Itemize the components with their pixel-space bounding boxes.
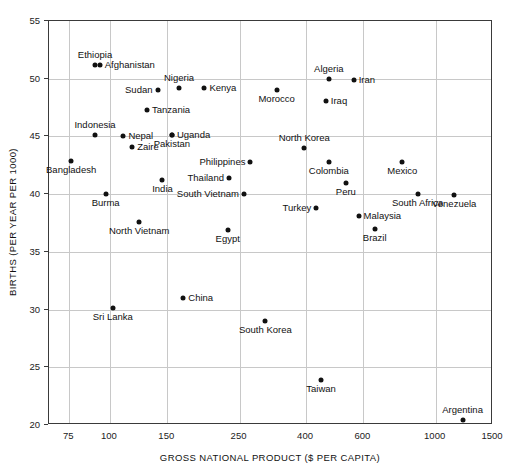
x-tick-label: 250	[231, 430, 247, 441]
x-tick-label: 150	[158, 430, 174, 441]
y-tick-mark	[44, 366, 48, 367]
data-point	[343, 180, 348, 185]
y-gridline	[49, 310, 491, 311]
data-point	[226, 175, 231, 180]
data-point-label: Egypt	[216, 234, 240, 244]
data-point-label: Argentina	[442, 405, 483, 415]
y-tick-label: 55	[14, 15, 40, 26]
data-point	[248, 159, 253, 164]
data-point-label: Burma	[92, 198, 120, 208]
x-tick-label: 1500	[481, 430, 502, 441]
data-point	[225, 227, 230, 232]
data-point-label: Pakistan	[154, 139, 190, 149]
data-point-label: Sri Lanka	[93, 312, 133, 322]
data-point	[97, 62, 102, 67]
y-tick-label: 30	[14, 303, 40, 314]
x-tick-label: 75	[63, 430, 74, 441]
data-point	[69, 158, 74, 163]
data-point	[263, 319, 268, 324]
x-tick-label: 600	[354, 430, 370, 441]
data-point	[137, 219, 142, 224]
x-gridline	[240, 21, 241, 423]
y-tick-mark	[44, 309, 48, 310]
y-gridline	[49, 194, 491, 195]
data-point	[121, 134, 126, 139]
data-point-label: India	[152, 184, 173, 194]
x-gridline	[306, 21, 307, 423]
data-point-label: Indonesia	[74, 120, 115, 130]
data-point	[460, 418, 465, 423]
data-point-label: Malaysia	[364, 211, 402, 221]
y-tick-mark	[44, 135, 48, 136]
y-gridline	[49, 367, 491, 368]
data-point	[160, 178, 165, 183]
data-point-label: Tanzania	[152, 105, 190, 115]
y-gridline	[49, 79, 491, 80]
x-gridline	[69, 21, 70, 423]
data-point	[145, 107, 150, 112]
x-tick-label: 1000	[424, 430, 445, 441]
data-point-label: Venezuela	[432, 199, 476, 209]
data-point-label: Colombia	[309, 166, 349, 176]
data-point	[356, 214, 361, 219]
y-tick-label: 25	[14, 361, 40, 372]
x-tick-label: 100	[101, 430, 117, 441]
y-tick-label: 45	[14, 130, 40, 141]
y-tick-mark	[44, 251, 48, 252]
plot-area: EthiopiaAfghanistanSudanNigeriaKenyaMoro…	[48, 20, 492, 424]
data-point	[351, 77, 356, 82]
y-tick-mark	[44, 20, 48, 21]
data-point	[314, 205, 319, 210]
data-point-label: Bangladesh	[46, 165, 96, 175]
y-tick-label: 40	[14, 188, 40, 199]
data-point-label: South Vietnam	[177, 189, 239, 199]
data-point	[452, 193, 457, 198]
y-tick-mark	[44, 424, 48, 425]
data-point-label: Turkey	[283, 203, 312, 213]
data-point-label: Nigeria	[164, 73, 194, 83]
data-point	[326, 76, 331, 81]
data-point	[181, 296, 186, 301]
data-point	[400, 159, 405, 164]
data-point	[274, 88, 279, 93]
data-point-label: Kenya	[209, 83, 236, 93]
data-point	[323, 98, 328, 103]
data-point-label: China	[188, 293, 213, 303]
data-point-label: Taiwan	[306, 384, 336, 394]
scatter-chart-figure: EthiopiaAfghanistanSudanNigeriaKenyaMoro…	[0, 0, 518, 474]
y-gridline	[49, 252, 491, 253]
data-point	[415, 192, 420, 197]
data-point-label: Mexico	[387, 166, 417, 176]
data-point-label: North Korea	[279, 133, 330, 143]
y-tick-label: 50	[14, 72, 40, 83]
data-point	[302, 145, 307, 150]
data-point-label: Afghanistan	[105, 60, 155, 70]
data-point-label: Peru	[336, 187, 356, 197]
data-point-label: Philippines	[199, 157, 245, 167]
data-point-label: North Vietnam	[109, 226, 170, 236]
x-tick-label: 400	[297, 430, 313, 441]
data-point-label: Zaire	[137, 142, 159, 152]
data-point-label: Iran	[359, 75, 375, 85]
x-gridline	[110, 21, 111, 423]
y-tick-mark	[44, 193, 48, 194]
x-axis-title: GROSS NATIONAL PRODUCT ($ PER CAPITA)	[48, 452, 492, 463]
data-point-label: South Korea	[239, 325, 292, 335]
data-point	[130, 144, 135, 149]
y-tick-label: 20	[14, 419, 40, 430]
y-tick-mark	[44, 78, 48, 79]
data-point	[242, 192, 247, 197]
data-point	[177, 85, 182, 90]
data-point-label: Algeria	[314, 64, 344, 74]
data-point-label: Thailand	[188, 173, 224, 183]
x-gridline	[436, 21, 437, 423]
y-tick-label: 35	[14, 245, 40, 256]
data-point-label: Brazil	[363, 233, 387, 243]
data-point-label: Iraq	[331, 96, 347, 106]
data-point	[110, 306, 115, 311]
data-point	[202, 85, 207, 90]
data-point	[93, 133, 98, 138]
data-point	[372, 226, 377, 231]
data-point-label: Sudan	[125, 85, 152, 95]
data-point	[169, 133, 174, 138]
